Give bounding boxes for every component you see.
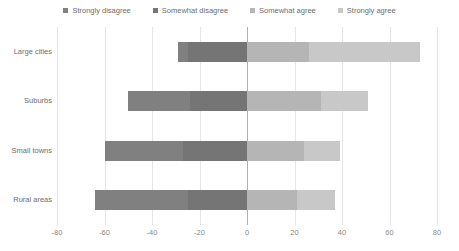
- x-axis-tick-label: 80: [433, 228, 441, 238]
- chart-legend: Strongly disagreeSomewhat disagreeSomewh…: [0, 6, 459, 15]
- bar-segment[interactable]: [128, 91, 190, 111]
- bar-segment[interactable]: [247, 141, 304, 161]
- legend-item[interactable]: Strongly agree: [338, 6, 396, 15]
- legend-label: Strongly agree: [347, 6, 396, 15]
- x-axis-tick-labels: -80-60-40-20020406080: [57, 228, 437, 242]
- bar-segment[interactable]: [183, 141, 247, 161]
- legend-label: Strongly disagree: [72, 6, 130, 15]
- bar-segment[interactable]: [95, 190, 188, 210]
- plot-area: [57, 27, 437, 225]
- bar-row[interactable]: [57, 42, 437, 62]
- legend-label: Somewhat disagree: [162, 6, 228, 15]
- bar-segment[interactable]: [304, 141, 340, 161]
- x-axis-tick-label: -60: [99, 228, 110, 238]
- bar-segment[interactable]: [178, 42, 188, 62]
- bar-segment[interactable]: [190, 91, 247, 111]
- y-axis-label: Suburbs: [0, 96, 52, 105]
- legend-item[interactable]: Somewhat agree: [250, 6, 316, 15]
- y-axis-label: Small towns: [0, 146, 52, 155]
- bar-segment[interactable]: [297, 190, 335, 210]
- bar-row[interactable]: [57, 91, 437, 111]
- bar-row[interactable]: [57, 141, 437, 161]
- bar-segment[interactable]: [247, 42, 309, 62]
- x-axis-tick-label: -20: [194, 228, 205, 238]
- legend-label: Somewhat agree: [259, 6, 316, 15]
- legend-swatch-icon: [250, 8, 255, 13]
- legend-swatch-icon: [338, 8, 343, 13]
- bar-segment[interactable]: [309, 42, 421, 62]
- x-axis-tick-label: 20: [290, 228, 298, 238]
- bar-segment[interactable]: [188, 190, 247, 210]
- bar-segment[interactable]: [188, 42, 247, 62]
- legend-swatch-icon: [153, 8, 158, 13]
- bar-segment[interactable]: [247, 91, 321, 111]
- x-axis-tick-label: -40: [147, 228, 158, 238]
- y-axis-label: Rural areas: [0, 195, 52, 204]
- y-axis-label: Large cities: [0, 47, 52, 56]
- x-axis-tick-label: 40: [338, 228, 346, 238]
- bar-row[interactable]: [57, 190, 437, 210]
- legend-swatch-icon: [63, 8, 68, 13]
- x-axis-tick-label: -80: [52, 228, 63, 238]
- y-axis-category-labels: Large citiesSuburbsSmall townsRural area…: [0, 27, 52, 225]
- bar-segment[interactable]: [321, 91, 369, 111]
- diverging-stacked-bar-chart: Strongly disagreeSomewhat disagreeSomewh…: [0, 0, 459, 251]
- bar-segment[interactable]: [247, 190, 297, 210]
- legend-item[interactable]: Strongly disagree: [63, 6, 130, 15]
- gridline: [437, 27, 438, 225]
- x-axis-tick-label: 0: [245, 228, 249, 238]
- legend-item[interactable]: Somewhat disagree: [153, 6, 228, 15]
- bar-segment[interactable]: [105, 141, 183, 161]
- x-axis-tick-label: 60: [385, 228, 393, 238]
